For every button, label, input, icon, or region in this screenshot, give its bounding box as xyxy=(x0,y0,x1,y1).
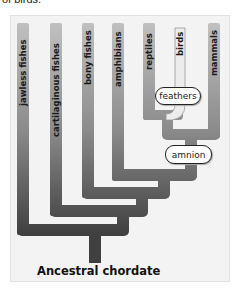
root-label: Ancestral chordate xyxy=(37,264,160,278)
taxon-label: amphibians xyxy=(113,32,123,88)
taxon-label: mammals xyxy=(209,30,219,76)
taxon-label: birds xyxy=(175,32,185,56)
taxon-label: cartilaginous fishes xyxy=(51,43,61,137)
trait-feathers: feathers xyxy=(155,87,201,105)
taxon-label: reptiles xyxy=(144,33,154,70)
trait-amnion: amnion xyxy=(165,145,212,164)
taxon-label: jawless fishes xyxy=(18,40,28,107)
taxon-label: bony fishes xyxy=(83,30,93,85)
